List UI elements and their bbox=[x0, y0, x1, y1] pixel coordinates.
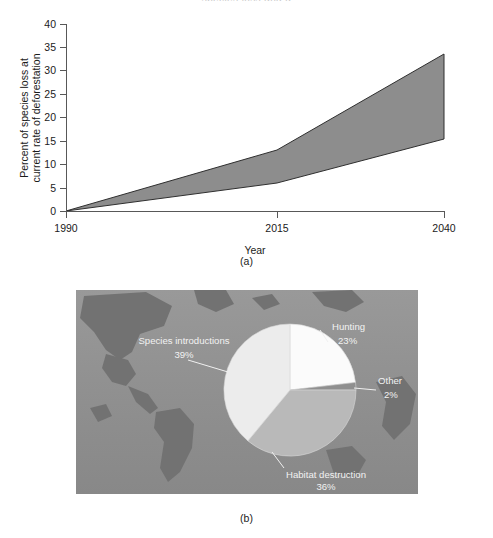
y-tick-label: 25 bbox=[44, 88, 56, 100]
panel-a-area-chart: 40 35 30 25 20 15 10 5 0 1990 2015 2040 bbox=[0, 0, 493, 272]
y-tick-label: 15 bbox=[44, 135, 56, 147]
pie-label-species-introductions-text: Species introductions bbox=[138, 335, 229, 346]
species-loss-band bbox=[66, 54, 444, 211]
x-axis-tick-labels: 1990 2015 2040 bbox=[54, 222, 456, 234]
y-axis-title-line1: Percent of species loss at bbox=[18, 58, 30, 178]
y-tick-label: 0 bbox=[50, 205, 56, 217]
y-axis-tick-labels: 40 35 30 25 20 15 10 5 0 bbox=[44, 18, 56, 217]
caption-panel-b: (b) bbox=[0, 512, 493, 524]
y-tick-label: 40 bbox=[44, 18, 56, 30]
y-tick-label: 35 bbox=[44, 41, 56, 53]
pie-label-habitat-destruction-text: Habitat destruction bbox=[286, 469, 366, 480]
y-axis-title: Percent of species loss at current rate … bbox=[18, 53, 42, 182]
pie-chart-svg: Hunting 23% Other 2% Habitat destruction… bbox=[76, 290, 418, 494]
pie-label-hunting-percent: 23% bbox=[338, 335, 358, 346]
y-tick-label: 10 bbox=[44, 158, 56, 170]
caption-panel-a: (a) bbox=[0, 255, 493, 267]
y-tick-label: 30 bbox=[44, 64, 56, 76]
x-tick-label: 2040 bbox=[432, 222, 456, 234]
panel-b-pie-chart: Hunting 23% Other 2% Habitat destruction… bbox=[76, 290, 418, 494]
y-tick-label: 20 bbox=[44, 111, 56, 123]
pie-label-other-text: Other bbox=[378, 375, 403, 386]
pie-label-other-percent: 2% bbox=[384, 389, 398, 400]
x-tick-label: 1990 bbox=[54, 222, 78, 234]
pie-label-species-introductions-percent: 39% bbox=[174, 349, 194, 360]
y-axis-ticks bbox=[60, 24, 66, 211]
figure-root: species loss and g bbox=[0, 0, 493, 538]
pie-label-habitat-destruction-percent: 36% bbox=[316, 481, 336, 492]
x-tick-label: 2015 bbox=[265, 222, 289, 234]
x-axis-ticks bbox=[66, 211, 444, 218]
y-axis-title-line2: current rate of deforestation bbox=[30, 53, 42, 182]
y-tick-label: 5 bbox=[50, 182, 56, 194]
pie-label-hunting-text: Hunting bbox=[332, 321, 365, 332]
area-chart-svg: 40 35 30 25 20 15 10 5 0 1990 2015 2040 bbox=[0, 0, 493, 272]
